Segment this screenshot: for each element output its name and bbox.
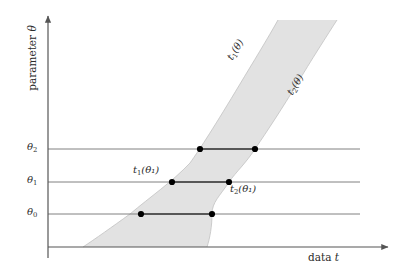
tick-subscript: 2 xyxy=(33,146,37,154)
figure-canvas: parameter θ data t θ2 θ1 θ0 t1(θ) t2(θ) … xyxy=(0,0,409,273)
point-label-t2-theta1: t2(θ₁) xyxy=(230,183,256,196)
point-t1-theta1 xyxy=(169,179,175,185)
y-axis-title: parameter θ xyxy=(26,0,38,118)
x-axis-title: data t xyxy=(308,251,339,263)
point-t2-theta2 xyxy=(252,146,258,152)
y-tick-label-theta0: θ0 xyxy=(27,206,37,219)
y-axis-title-prefix: parameter xyxy=(26,32,38,91)
point-t2-theta0 xyxy=(209,211,215,217)
point-t1-theta2 xyxy=(197,146,203,152)
y-tick-label-theta1: θ1 xyxy=(27,174,37,187)
diagram-svg xyxy=(0,0,409,273)
x-axis-title-symbol: t xyxy=(335,251,339,263)
y-tick-label-theta2: θ2 xyxy=(27,141,37,154)
point-label-arg: (θ₁) xyxy=(141,164,159,175)
y-axis-title-symbol: θ xyxy=(26,25,38,31)
tick-subscript: 1 xyxy=(33,179,37,187)
tick-subscript: 0 xyxy=(33,211,37,219)
point-label-t1-theta1: t1(θ₁) xyxy=(133,164,159,177)
point-label-arg: (θ₁) xyxy=(238,183,256,194)
x-axis-title-prefix: data xyxy=(308,251,335,263)
point-t1-theta0 xyxy=(138,211,144,217)
